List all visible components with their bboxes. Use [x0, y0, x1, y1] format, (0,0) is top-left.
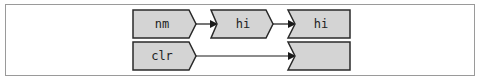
cell-hi-middle: hi — [211, 10, 273, 38]
waveform-diagram: nm hi hi clr — [0, 0, 479, 82]
cell-label-hi-right: hi — [314, 17, 328, 31]
cell-label-clr: clr — [151, 49, 173, 63]
cell-label-hi-middle: hi — [236, 17, 250, 31]
cell-nm: nm — [133, 10, 196, 38]
cell-clr: clr — [133, 42, 196, 70]
cell-hi-right: hi — [288, 10, 350, 38]
cell-label-nm: nm — [155, 17, 169, 31]
cell-empty-right — [288, 42, 350, 70]
